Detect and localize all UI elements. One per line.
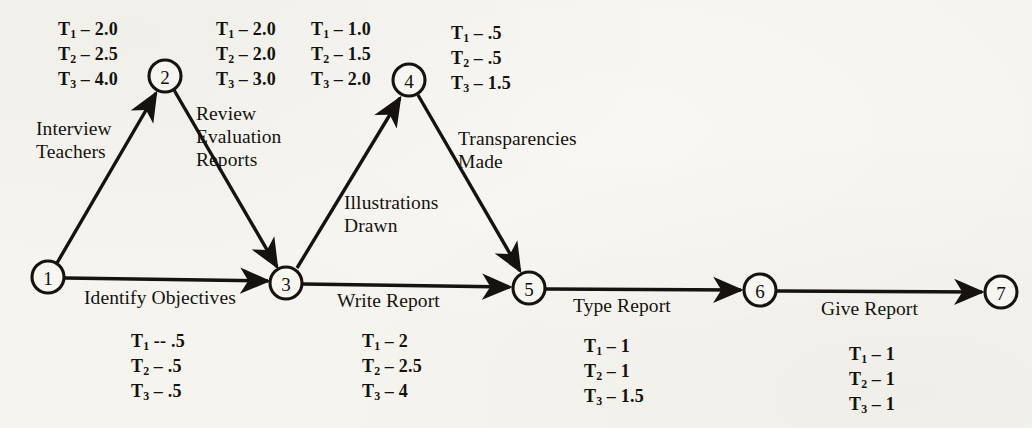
- time-var: T: [131, 356, 143, 376]
- edge-5-6: [546, 289, 741, 290]
- node-7-label: 7: [996, 283, 1006, 304]
- node-3-label: 3: [281, 274, 291, 295]
- time-separator: –: [469, 73, 488, 93]
- time-row: T3 – 1.5: [584, 385, 644, 410]
- time-separator: –: [469, 48, 488, 68]
- time-row: T2 – 2.0: [216, 43, 276, 68]
- time-var: T: [362, 331, 374, 351]
- node-6-label: 6: [755, 281, 765, 302]
- time-separator: --: [149, 331, 171, 351]
- time-separator: –: [329, 69, 348, 89]
- time-separator: –: [76, 44, 95, 64]
- node-3[interactable]: 3: [270, 267, 302, 299]
- time-value: 1: [621, 336, 630, 356]
- time-var: T: [584, 361, 596, 381]
- node-2[interactable]: 2: [149, 60, 181, 92]
- edge-3-5: [303, 284, 510, 287]
- time-block-type-report: T1 – 1T2 – 1T3 – 1.5: [584, 335, 644, 409]
- time-var: T: [311, 69, 323, 89]
- time-value: 3.0: [253, 69, 276, 89]
- time-value: .5: [488, 23, 502, 43]
- time-row: T2 – 2.5: [362, 355, 422, 380]
- time-var: T: [849, 394, 861, 414]
- edge-label-review-evaluation-reports: Review Evaluation Reports: [196, 103, 281, 171]
- time-var: T: [584, 336, 596, 356]
- node-1[interactable]: 1: [32, 261, 64, 293]
- time-var: T: [58, 69, 70, 89]
- time-block-give-report: T1 – 1T2 – 1T3 – 1: [849, 343, 895, 417]
- time-separator: –: [469, 23, 488, 43]
- edge-label-identify-objectives: Identify Objectives: [84, 287, 236, 310]
- time-var: T: [362, 356, 374, 376]
- time-row: T2 – 2.5: [58, 43, 118, 68]
- time-row: T1 – 1: [584, 335, 644, 360]
- time-row: T3 – 4.0: [58, 68, 118, 93]
- edge-1-3: [65, 278, 268, 281]
- time-separator: –: [867, 344, 886, 364]
- time-block-illustrations-drawn: T1 – 1.0T2 – 1.5T3 – 2.0: [311, 18, 371, 92]
- time-row: T1 – 2.0: [58, 18, 118, 43]
- time-separator: –: [380, 356, 399, 376]
- edge-4-5: [418, 95, 520, 271]
- node-4-label: 4: [404, 71, 414, 92]
- time-row: T3 – 1.5: [451, 72, 511, 97]
- time-row: T1 – 2: [362, 330, 422, 355]
- time-var: T: [216, 19, 228, 39]
- edge-6-7: [777, 291, 982, 292]
- time-value: 2.0: [348, 69, 371, 89]
- time-row: T1 – .5: [451, 22, 511, 47]
- node-6[interactable]: 6: [744, 274, 776, 306]
- node-7[interactable]: 7: [985, 276, 1017, 308]
- time-row: T2 – .5: [451, 47, 511, 72]
- time-separator: –: [602, 386, 621, 406]
- time-value: 1.5: [348, 44, 371, 64]
- time-value: 4: [399, 381, 408, 401]
- time-var: T: [216, 44, 228, 64]
- node-5-label: 5: [524, 279, 534, 300]
- edge-3-4: [297, 98, 400, 268]
- time-var: T: [362, 381, 374, 401]
- edge-label-interview-teachers: Interview Teachers: [36, 118, 112, 164]
- time-separator: –: [149, 381, 168, 401]
- time-value: .5: [168, 381, 182, 401]
- time-block-write-report: T1 – 2T2 – 2.5T3 – 4: [362, 330, 422, 404]
- time-block-identify-objectives: T1 -- .5T2 – .5T3 – .5: [131, 330, 185, 404]
- edge-label-type-report: Type Report: [573, 295, 671, 318]
- time-separator: –: [867, 394, 886, 414]
- pert-network-diagram: 1 2 3 4 5 6 7: [0, 0, 1032, 428]
- time-value: .5: [171, 331, 185, 351]
- time-value: 2.0: [95, 19, 118, 39]
- time-separator: –: [329, 19, 348, 39]
- time-row: T2 – 1.5: [311, 43, 371, 68]
- time-row: T1 – 1: [849, 343, 895, 368]
- time-row: T3 – 4: [362, 380, 422, 405]
- time-block-transparencies-made: T1 – .5T2 – .5T3 – 1.5: [451, 22, 511, 96]
- time-value: 2.0: [253, 19, 276, 39]
- time-var: T: [849, 344, 861, 364]
- time-separator: –: [602, 336, 621, 356]
- time-value: 1.5: [621, 386, 644, 406]
- time-separator: –: [234, 44, 253, 64]
- time-value: 4.0: [95, 69, 118, 89]
- time-value: 2.0: [253, 44, 276, 64]
- time-var: T: [58, 19, 70, 39]
- time-separator: –: [234, 69, 253, 89]
- time-var: T: [58, 44, 70, 64]
- time-separator: –: [380, 381, 399, 401]
- time-row: T1 – 2.0: [216, 18, 276, 43]
- node-4[interactable]: 4: [393, 64, 425, 96]
- node-1-label: 1: [43, 268, 53, 289]
- time-value: 2: [399, 331, 408, 351]
- time-row: T3 – 3.0: [216, 68, 276, 93]
- time-var: T: [311, 44, 323, 64]
- time-row: T3 – 2.0: [311, 68, 371, 93]
- time-row: T1 -- .5: [131, 330, 185, 355]
- time-var: T: [131, 331, 143, 351]
- time-row: T3 – 1: [849, 393, 895, 418]
- time-value: 1: [886, 344, 895, 364]
- time-row: T2 – 1: [584, 360, 644, 385]
- node-5[interactable]: 5: [513, 272, 545, 304]
- time-value: 2.5: [95, 44, 118, 64]
- time-var: T: [849, 369, 861, 389]
- time-value: .5: [488, 48, 502, 68]
